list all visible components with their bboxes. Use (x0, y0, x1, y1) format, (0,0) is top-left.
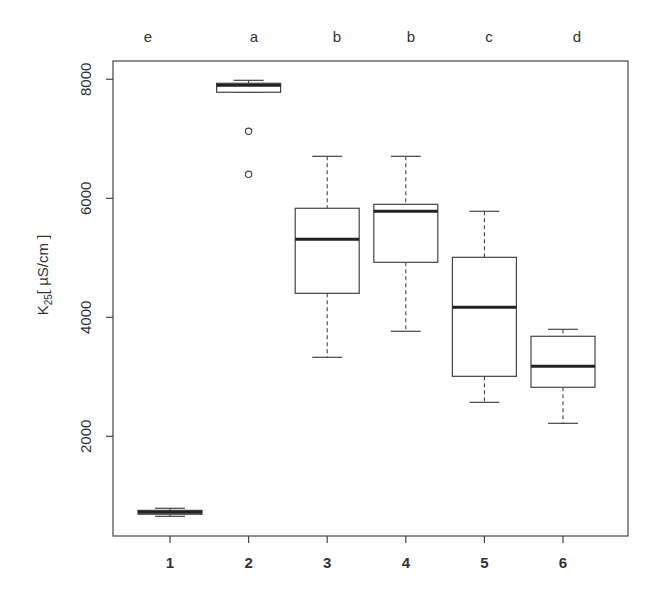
x-tick-label: 1 (166, 554, 174, 571)
y-axis-label-unit: [ µS/cm ] (34, 235, 51, 294)
boxplot-chart: 2000400060008000 123456 eabbcd (0, 0, 658, 595)
x-tick-label: 6 (559, 554, 567, 571)
group-letter: c (485, 28, 493, 45)
x-tick-label: 3 (323, 554, 331, 571)
box-group-6 (531, 329, 595, 423)
box-group-1 (138, 508, 202, 516)
y-axis-label-main: K (34, 305, 51, 315)
plot-frame (113, 61, 628, 536)
group-letter: b (407, 28, 415, 45)
group-letters: eabbcd (144, 28, 581, 45)
iqr-box (452, 257, 516, 376)
y-tick-label: 8000 (77, 63, 94, 96)
y-tick-label: 6000 (77, 182, 94, 215)
y-axis-label: K25[ µS/cm ] (34, 235, 54, 316)
group-letter: d (573, 28, 581, 45)
outlier-point (245, 128, 251, 134)
x-tick-label: 2 (244, 554, 252, 571)
iqr-box (531, 336, 595, 387)
x-axis: 123456 (166, 536, 567, 571)
y-axis: 2000400060008000 (77, 63, 113, 453)
y-axis-label-subscript: 25 (43, 294, 54, 305)
group-letter: a (250, 28, 259, 45)
outlier-point (245, 171, 251, 177)
boxes (138, 80, 595, 516)
box-group-4 (374, 156, 438, 331)
group-letter: e (144, 28, 152, 45)
y-tick-label: 2000 (77, 420, 94, 453)
box-group-2 (217, 80, 281, 177)
box-group-5 (452, 211, 516, 402)
iqr-box (295, 208, 359, 293)
y-tick-label: 4000 (77, 301, 94, 334)
group-letter: b (333, 28, 341, 45)
box-group-3 (295, 156, 359, 357)
x-tick-label: 5 (480, 554, 488, 571)
x-tick-label: 4 (402, 554, 411, 571)
iqr-box (374, 204, 438, 262)
